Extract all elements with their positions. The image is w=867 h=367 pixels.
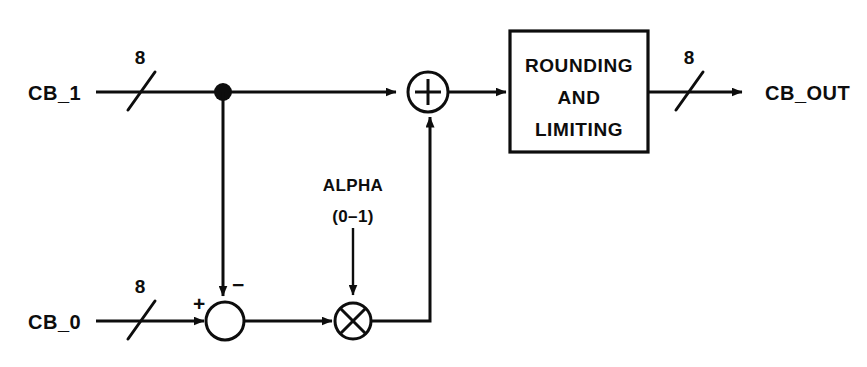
alpha-range-label: (0–1) <box>332 207 374 226</box>
alpha-label: ALPHA <box>323 176 384 195</box>
cbout-output-label: CB_OUT <box>765 82 850 104</box>
block-line-limiting: LIMITING <box>535 119 623 140</box>
subtractor-node <box>206 302 244 340</box>
cb0-input-label: CB_0 <box>28 311 81 333</box>
cb0-input-wire <box>96 301 204 339</box>
multiplier-to-adder-feedback-wire <box>371 117 430 321</box>
cb1-input-label: CB_1 <box>28 82 81 104</box>
adder-node <box>408 72 448 112</box>
block-diagram-svg: CB_1 8 CB_0 8 CB_OUT 8 + − ALPHA (0–1) R… <box>0 0 867 367</box>
cb1-bus-width-label: 8 <box>135 47 146 68</box>
multiplier-node <box>335 303 371 339</box>
subtractor-positive-sign: + <box>193 292 205 315</box>
cbout-bus-width-label: 8 <box>684 47 695 68</box>
cb0-bus-width-label: 8 <box>135 276 146 297</box>
block-to-output-wire <box>648 72 742 110</box>
block-line-and: AND <box>558 87 601 108</box>
block-diagram-canvas: CB_1 8 CB_0 8 CB_OUT 8 + − ALPHA (0–1) R… <box>0 0 867 367</box>
subtractor-negative-sign: − <box>232 273 244 296</box>
cb1-input-wire <box>96 72 224 110</box>
block-line-rounding: ROUNDING <box>525 55 633 76</box>
